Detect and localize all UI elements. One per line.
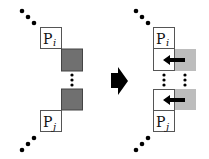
vertical-ellipsis-after	[162, 73, 186, 86]
diagram-canvas: P i P j P i	[0, 0, 209, 159]
after-panel: P i P j	[134, 9, 196, 153]
box-pj-before: P j	[41, 111, 62, 133]
ellipsis-bottom-left	[20, 136, 37, 153]
label-p: P	[43, 31, 52, 47]
box-pi-after: P i	[154, 28, 175, 49]
transition-arrow-icon	[111, 67, 128, 95]
ellipsis-top-right	[134, 9, 151, 26]
before-panel: P i P j	[20, 9, 83, 153]
label-p: P	[156, 31, 165, 47]
ellipsis-bottom-right	[134, 136, 151, 153]
subscript-i: i	[166, 37, 169, 48]
ellipsis-top-left	[20, 9, 37, 26]
subscript-i: i	[53, 37, 56, 48]
dark-block-top	[62, 49, 83, 71]
label-p: P	[156, 114, 165, 130]
box-pj-after: P j	[154, 111, 175, 133]
label-p: P	[43, 114, 52, 130]
vertical-ellipsis-before	[70, 73, 73, 86]
box-pi-before: P i	[41, 28, 62, 49]
dark-block-bottom	[62, 89, 83, 110]
